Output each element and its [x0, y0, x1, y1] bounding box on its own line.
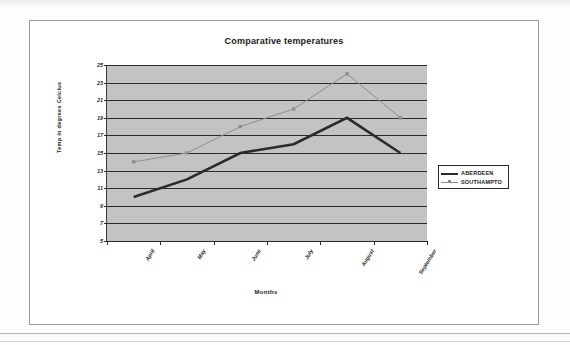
series-marker — [345, 72, 348, 75]
legend-item[interactable]: ABERDEEN — [439, 168, 508, 177]
y-axis-title: Temp in degrees Celcius — [56, 82, 62, 153]
x-axis-tick-mark — [214, 241, 215, 245]
series-line — [134, 118, 401, 197]
x-axis-tick-label: April — [144, 248, 156, 262]
y-axis-tick-label: 21 — [97, 97, 103, 103]
x-axis-tick-label: May — [196, 248, 207, 260]
chart-object-frame: Comparative temperatures Temp in degrees… — [29, 20, 539, 325]
series-marker — [292, 107, 295, 110]
chart-title: Comparative temperatures — [30, 36, 538, 46]
legend-item[interactable]: SOUTHAMPTO — [439, 177, 508, 186]
legend-item-label: SOUTHAMPTO — [461, 179, 502, 185]
line-chart: Comparative temperatures Temp in degrees… — [30, 21, 538, 324]
x-axis-tick-label: July — [303, 248, 314, 261]
page-top-scan-artifact — [0, 0, 570, 7]
y-axis-tick-label: 23 — [97, 80, 103, 86]
scanned-page: Comparative temperatures Temp in degrees… — [0, 0, 570, 345]
plot-area: 2523211917151311975 AprilMayJuneJulyAugu… — [106, 65, 427, 242]
y-axis-tick-label: 13 — [97, 168, 103, 174]
y-axis-tick-label: 5 — [100, 238, 103, 244]
legend-item-label: ABERDEEN — [461, 170, 493, 176]
series-plot — [107, 65, 427, 241]
x-axis-tick-label: June — [250, 248, 262, 262]
series-marker — [185, 151, 188, 154]
x-axis-tick-label: September — [418, 248, 438, 275]
x-axis-tick-mark — [267, 241, 268, 245]
y-axis-tick-label: 15 — [97, 150, 103, 156]
x-axis-tick-mark — [427, 241, 428, 245]
x-axis-tick-mark — [320, 241, 321, 245]
y-axis-tick-label: 7 — [100, 220, 103, 226]
y-axis-tick-label: 11 — [97, 185, 103, 191]
x-axis-tick-mark — [160, 241, 161, 245]
y-axis-tick-label: 17 — [97, 132, 103, 138]
legend-swatch-icon — [441, 177, 458, 186]
y-axis-tick-label: 25 — [97, 62, 103, 68]
x-axis-title: Months — [106, 289, 426, 295]
x-axis-tick-label: August — [360, 248, 375, 267]
y-axis-tick-label: 9 — [100, 203, 103, 209]
series-marker — [399, 116, 402, 119]
page-bottom-rule-secondary — [0, 341, 570, 342]
legend-swatch-icon — [441, 168, 458, 177]
series-marker — [239, 125, 242, 128]
x-axis-tick-mark — [107, 241, 108, 245]
x-axis-tick-mark — [374, 241, 375, 245]
y-axis-tick-label: 19 — [97, 115, 103, 121]
series-marker — [132, 160, 135, 163]
page-bottom-rule — [0, 333, 570, 337]
chart-legend: ABERDEENSOUTHAMPTO — [438, 165, 509, 189]
